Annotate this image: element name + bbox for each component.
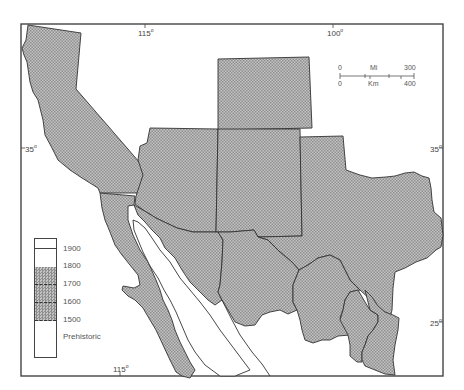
graticule-label-left-35: 35o [25, 144, 37, 154]
graticule-label-right-25: 25o [430, 318, 442, 328]
graticule-label-top-100: 100o [327, 28, 343, 38]
scale-km-start: 0 [338, 80, 342, 87]
scale-bar [340, 73, 414, 79]
region-colorado [218, 57, 312, 130]
legend-label-1700: 1700 [63, 279, 81, 288]
legend-label-1800: 1800 [63, 261, 81, 270]
legend-seg-1500 [35, 303, 56, 321]
graticule-label-right-35: 35o [430, 144, 442, 154]
scale-km-end: 400 [404, 80, 416, 87]
scale-miles-start: 0 [338, 64, 342, 71]
region-new-mexico [216, 129, 302, 237]
legend-seg-prehistoric [35, 321, 56, 357]
legend-seg-1600 [35, 285, 56, 303]
legend-seg-1900 [35, 239, 56, 249]
legend-swatch-column [34, 238, 57, 358]
graticule-label-bottom-115: 115o [113, 364, 129, 374]
graticule-label-top-115: 115o [138, 28, 154, 38]
region-california [22, 25, 145, 193]
legend-label-1900: 1900 [63, 244, 81, 253]
legend-label-1600: 1600 [63, 297, 81, 306]
scale-miles-unit: Mi [370, 64, 377, 71]
legend-seg-1700 [35, 267, 56, 285]
legend-label-prehistoric: Prehistoric [63, 332, 101, 341]
legend-label-1500: 1500 [63, 315, 81, 324]
scale-km-unit: Km [368, 80, 379, 87]
legend-seg-1800 [35, 249, 56, 267]
scale-miles-end: 300 [404, 64, 416, 71]
